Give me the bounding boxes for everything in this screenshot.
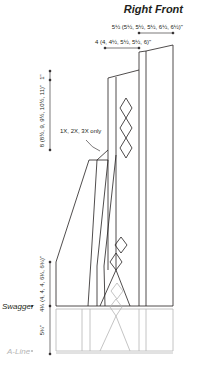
shoulder-width-dimension [104, 47, 140, 49]
armhole-dimension [49, 70, 51, 151]
swagger-label: Swagger [2, 302, 34, 311]
front-outline [56, 45, 173, 306]
lower-body-dimension [49, 261, 51, 355]
aline-extension [56, 283, 173, 353]
top-width-dimension [138, 32, 174, 34]
diagram-title: Right Front [124, 3, 185, 15]
swagger-marker [31, 305, 33, 307]
armhole-depth-label: 8 (8½, 9, 9½, 10½, 11)" [39, 85, 45, 147]
shoulder-drop-label: 1" [39, 74, 45, 79]
lower-body-label: 4¼ (4, 4, 4, 6¼, 6¾)" [39, 256, 45, 312]
top-width-label: 5½ (5½, 5½, 5½, 6½, 6½)" [112, 24, 183, 30]
size-note-label: 1X, 2X, 3X only [60, 128, 101, 134]
size-note-leader [86, 140, 100, 151]
aline-marker [31, 350, 33, 352]
aline-label: A-Line [6, 347, 31, 356]
upper-cable-motif [120, 98, 132, 158]
schematic: Right Front 5½ (5½, 5½, 5½, 6½, 6½)" 4 (… [0, 0, 198, 375]
shoulder-width-label: 4 (4, 4½, 5½, 5½, 6)" [95, 39, 151, 45]
aline-extension-label: 5¾" [39, 325, 45, 335]
